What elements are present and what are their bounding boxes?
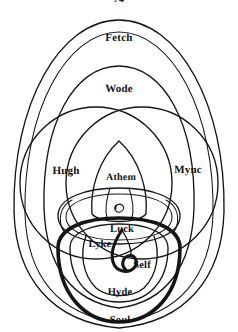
label-mync: Mync: [174, 164, 202, 176]
soul-parts-diagram: [0, 0, 238, 332]
label-athem: Athem: [106, 172, 136, 183]
label-hyde: Hyde: [108, 287, 133, 298]
label-self: Self: [133, 260, 151, 271]
label-lyke: Lyke: [89, 239, 112, 250]
label-luck: Luck: [110, 224, 134, 235]
athem-inner-left-stroke: [106, 188, 110, 218]
athem-inner-right-stroke: [129, 188, 133, 218]
label-hugh: Hugh: [52, 165, 79, 177]
diagram-page: 24: [0, 0, 238, 332]
label-wode: Wode: [105, 83, 133, 95]
athem-knot-glyph: [115, 204, 124, 212]
label-soul: Soul: [110, 315, 131, 326]
label-fetch: Fetch: [105, 32, 132, 44]
